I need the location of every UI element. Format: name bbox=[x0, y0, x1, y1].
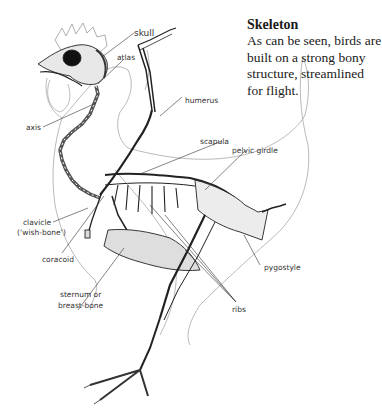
label-coracoid: coracoid bbox=[42, 255, 74, 264]
label-sternum: sternum or bbox=[60, 290, 101, 299]
label-pygostyle: pygostyle bbox=[264, 263, 301, 272]
label-clavicle: clavicle bbox=[23, 218, 51, 227]
label-scapula: scapula bbox=[200, 137, 229, 146]
label-atlas: atlas bbox=[117, 53, 135, 62]
caption: Skeleton As can be seen, birds are built… bbox=[247, 17, 382, 99]
label-humerus: humerus bbox=[185, 96, 218, 105]
label-wish-bone: (‘wish-bone’) bbox=[17, 228, 66, 237]
label-axis: axis bbox=[26, 123, 41, 132]
label-skull: skull bbox=[134, 29, 154, 38]
label-ribs: ribs bbox=[232, 305, 246, 314]
label-breast-bone: breast-bone bbox=[58, 301, 103, 310]
caption-title: Skeleton bbox=[247, 17, 382, 33]
caption-body: As can be seen, birds are built on a str… bbox=[247, 33, 382, 99]
label-pelvic-girdle: pelvic girdle bbox=[232, 146, 278, 155]
